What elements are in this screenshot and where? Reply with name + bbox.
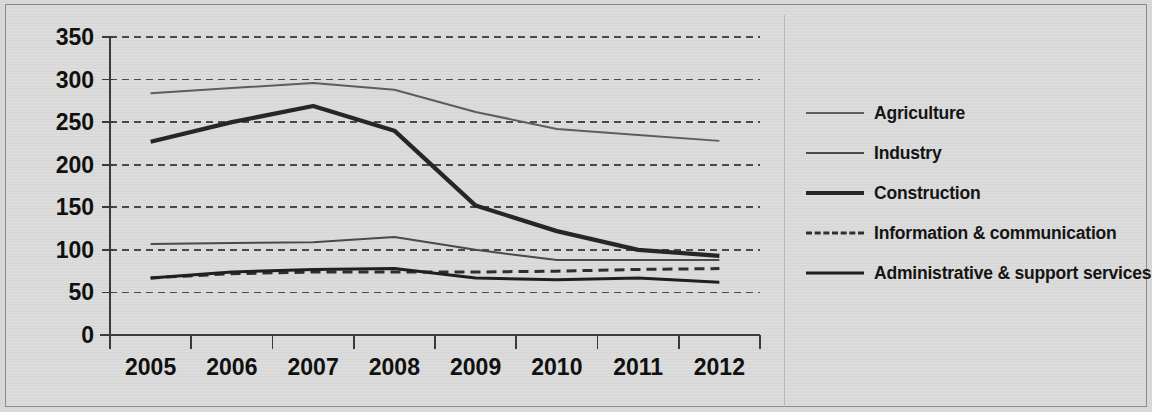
- chart-screenshot: 350300250200150100500 200520062007200820…: [0, 0, 1152, 412]
- legend-label-administrative-support-services: Administrative & support services: [874, 263, 1151, 284]
- line-key-industry-icon: [806, 146, 864, 160]
- legend-item-industry[interactable]: Industry: [806, 133, 1151, 173]
- line-key-construction-icon: [806, 186, 864, 200]
- svg-text:250: 250: [56, 109, 94, 135]
- svg-text:0: 0: [81, 322, 94, 348]
- x-axis-labels-group: 20052006200720082009201020112012: [125, 354, 745, 380]
- legend-label-agriculture: Agriculture: [874, 103, 965, 124]
- legend-item-construction[interactable]: Construction: [806, 173, 1151, 213]
- svg-text:350: 350: [56, 24, 94, 50]
- svg-text:2011: 2011: [613, 354, 663, 380]
- svg-text:2006: 2006: [206, 354, 257, 380]
- svg-text:2010: 2010: [531, 354, 582, 380]
- legend-divider: [784, 15, 785, 407]
- svg-text:2012: 2012: [694, 354, 745, 380]
- line-key-information-communication-icon: [806, 226, 864, 240]
- svg-text:2007: 2007: [288, 354, 339, 380]
- line-key-agriculture-icon: [806, 106, 864, 120]
- y-tick-marks-group: [102, 37, 113, 335]
- svg-text:2009: 2009: [450, 354, 501, 380]
- axis-lines-group: [100, 37, 760, 345]
- plot-area: 350300250200150100500 200520062007200820…: [6, 5, 796, 412]
- legend-item-information-communication[interactable]: Information & communication: [806, 213, 1151, 253]
- svg-text:50: 50: [68, 279, 94, 305]
- chart-legend: Agriculture Industry Construction Inform…: [806, 93, 1151, 293]
- legend-item-administrative-support-services[interactable]: Administrative & support services: [806, 253, 1151, 293]
- legend-label-industry: Industry: [874, 143, 941, 164]
- svg-text:100: 100: [56, 237, 94, 263]
- data-series-group: [151, 83, 720, 282]
- svg-text:200: 200: [56, 152, 94, 178]
- line-chart-svg: 350300250200150100500 200520062007200820…: [6, 5, 796, 412]
- gridlines-group: [110, 37, 760, 292]
- svg-text:300: 300: [56, 67, 94, 93]
- legend-item-agriculture[interactable]: Agriculture: [806, 93, 1151, 133]
- svg-text:150: 150: [56, 194, 94, 220]
- svg-text:2005: 2005: [125, 354, 176, 380]
- line-key-administrative-support-services-icon: [806, 266, 864, 280]
- figure-frame: 350300250200150100500 200520062007200820…: [5, 4, 1147, 407]
- y-axis-labels-group: 350300250200150100500: [56, 24, 94, 348]
- x-tick-marks-group: [110, 335, 760, 349]
- svg-text:2008: 2008: [369, 354, 420, 380]
- legend-label-information-communication: Information & communication: [874, 223, 1117, 244]
- legend-label-construction: Construction: [874, 183, 980, 204]
